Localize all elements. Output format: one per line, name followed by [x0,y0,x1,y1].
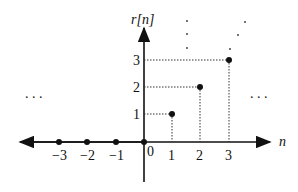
y-axis-label: r[n] [131,12,154,27]
svg-text:3: 3 [225,148,232,163]
svg-text:−3: −3 [52,148,67,163]
y-tick-labels: 1 2 3 [133,53,140,122]
ramp-sequence-diagram: −3 −2 −1 0 1 2 3 1 2 3 r[n] n . . . . . … [0,0,298,192]
right-ellipsis: . . . [250,86,268,101]
svg-text:−1: −1 [109,148,124,163]
continuation-dots [186,20,246,50]
svg-text:3: 3 [133,53,140,68]
svg-text:1: 1 [133,107,140,122]
x-tick-labels: −3 −2 −1 0 1 2 3 [52,144,232,163]
svg-text:2: 2 [133,80,140,95]
x-axis-label: n [279,134,286,149]
left-ellipsis: . . . [25,86,43,101]
svg-text:2: 2 [196,148,203,163]
svg-text:−2: −2 [80,148,95,163]
svg-text:0: 0 [147,144,154,159]
guide-lines [144,60,229,142]
svg-text:1: 1 [168,148,175,163]
